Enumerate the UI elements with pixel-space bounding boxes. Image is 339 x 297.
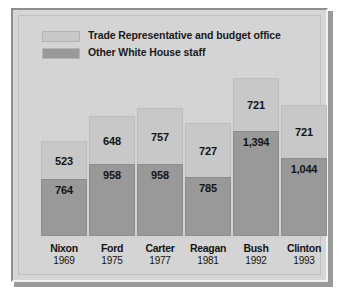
plot-area: 523764Nixon1969648958Ford1975757958Carte… [0,0,339,297]
x-axis-category-name: Bush [229,242,283,254]
bar-value-label: 721 [234,99,278,111]
bar-group: 648958Ford1975 [89,116,135,237]
x-axis-tick-label: Carter1977 [133,242,187,266]
bar-segment-other-staff: 958 [89,164,135,236]
bar-value-label: 785 [186,182,230,194]
bar-segment-other-staff: 1,044 [281,158,327,236]
x-axis-category-year: 1975 [85,255,139,266]
bar-value-label: 1,044 [282,163,326,175]
bar-value-label: 648 [90,135,134,147]
x-axis-tick-label: Ford1975 [85,242,139,266]
bar-segment-other-staff: 958 [137,164,183,236]
bar-value-label: 764 [42,184,86,196]
x-axis-tick-label: Nixon1969 [37,242,91,266]
bar-segment-trade-representative: 648 [89,116,135,165]
bar-group: 727785Reagan1981 [185,123,231,237]
bar-value-label: 757 [138,131,182,143]
x-axis-category-year: 1977 [133,255,187,266]
bar-segment-trade-representative: 757 [137,108,183,165]
bar-segment-trade-representative: 727 [185,123,231,178]
x-axis-tick-label: Clinton1993 [277,242,331,266]
bar-group: 757958Carter1977 [137,108,183,237]
bar-value-label: 721 [282,126,326,138]
x-axis-category-year: 1969 [37,255,91,266]
x-axis-category-name: Carter [133,242,187,254]
x-axis-category-name: Reagan [181,242,235,254]
bar-segment-trade-representative: 721 [281,105,327,159]
x-axis-category-year: 1981 [181,255,235,266]
bar-segment-trade-representative: 523 [41,141,87,180]
x-axis-tick-label: Bush1992 [229,242,283,266]
bar-group: 7211,044Clinton1993 [281,105,327,237]
x-axis-category-year: 1993 [277,255,331,266]
bar-value-label: 523 [42,155,86,167]
chart-figure: Trade Representative and budget office O… [0,0,339,297]
bar-group: 7211,394Bush1992 [233,78,279,237]
bar-segment-other-staff: 1,394 [233,131,279,236]
bar-value-label: 958 [90,169,134,181]
bar-segment-trade-representative: 721 [233,78,279,132]
bar-segment-other-staff: 785 [185,177,231,236]
bar-group: 523764Nixon1969 [41,141,87,237]
x-axis-category-name: Clinton [277,242,331,254]
bar-value-label: 1,394 [234,136,278,148]
x-axis-category-year: 1992 [229,255,283,266]
x-axis-category-name: Ford [85,242,139,254]
x-axis-tick-label: Reagan1981 [181,242,235,266]
bar-value-label: 958 [138,169,182,181]
bar-value-label: 727 [186,145,230,157]
x-axis-category-name: Nixon [37,242,91,254]
bar-segment-other-staff: 764 [41,179,87,236]
